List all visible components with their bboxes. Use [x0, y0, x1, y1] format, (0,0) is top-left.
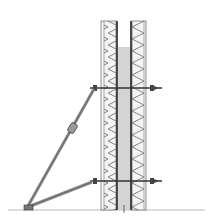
concrete-core — [118, 47, 131, 210]
long-brace-prop — [28, 89, 94, 206]
short-brace-prop — [28, 182, 92, 207]
formwork-diagram — [0, 0, 219, 220]
base-plate — [24, 205, 33, 210]
